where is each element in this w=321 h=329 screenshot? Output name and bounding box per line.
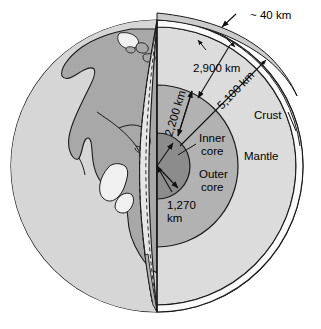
crust-thickness-arrow xyxy=(222,14,236,27)
label-crust-thickness: ~ 40 km xyxy=(250,9,291,21)
label-inner-core-diameter-line1: 1,270 xyxy=(167,199,196,211)
label-mantle: Mantle xyxy=(244,150,279,162)
earth-cross-section-diagram: ~ 40 km 2,900 km 5,100 km 2,200 km Crust… xyxy=(0,0,321,329)
label-outer-core-line2: core xyxy=(201,181,223,193)
arctic-island-d xyxy=(126,47,135,53)
label-mantle-depth: 2,900 km xyxy=(193,62,240,74)
earth-diagram-svg: ~ 40 km 2,900 km 5,100 km 2,200 km Crust… xyxy=(0,0,321,329)
cutaway-hemisphere xyxy=(157,13,303,312)
label-inner-core-line1: Inner xyxy=(199,132,225,144)
arctic-island-b xyxy=(136,43,148,53)
label-crust: Crust xyxy=(254,109,282,121)
label-outer-core-line1: Outer xyxy=(199,168,228,180)
label-inner-core-line2: core xyxy=(201,145,223,157)
label-inner-core-diameter-line2: km xyxy=(167,212,182,224)
